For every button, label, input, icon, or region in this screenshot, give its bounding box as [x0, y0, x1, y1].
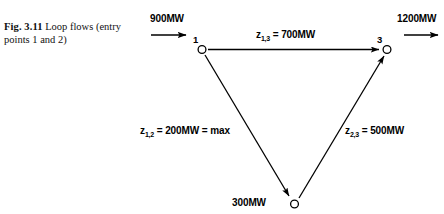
figure-container: Fig. 3.11 Loop flows (entry points 1 and…: [0, 0, 444, 214]
edge-label-z23-value: = 500MW: [362, 125, 404, 136]
edge-label-z13: z1,3 = 700MW: [256, 29, 315, 42]
node-3-label: 3: [377, 34, 382, 45]
edge-label-z23: z2,3 = 500MW: [345, 125, 404, 138]
edge-label-z12: z1,2 = 200MW = max: [140, 125, 230, 138]
node-1[interactable]: [198, 46, 206, 54]
inflow-label-900mw: 900MW: [150, 13, 184, 24]
edge-label-z12-value: = 200MW = max: [157, 125, 230, 136]
edge-label-z12-subscript: 1,2: [145, 131, 154, 138]
inflow-label-300mw: 300MW: [232, 197, 266, 208]
edge-label-z13-subscript: 1,3: [261, 35, 270, 42]
flow-diagram-canvas: [0, 0, 444, 214]
edge-label-z23-subscript: 2,3: [350, 131, 359, 138]
outflow-label-1200mw: 1200MW: [397, 13, 436, 24]
node-3[interactable]: [383, 46, 391, 54]
edge-label-z13-value: = 700MW: [273, 29, 315, 40]
node-1-label: 1: [193, 34, 198, 45]
node-2[interactable]: [291, 200, 299, 208]
